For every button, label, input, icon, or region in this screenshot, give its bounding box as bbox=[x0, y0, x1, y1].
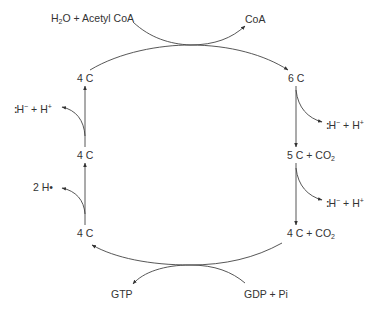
node-right-bottom-4c-co2: 4 C + CO2 bbox=[287, 227, 335, 243]
node-left-mid-4c: 4 C bbox=[77, 149, 93, 161]
product-2h-left-lower: 2 H• bbox=[33, 181, 53, 193]
node-left-bottom-4c: 4 C bbox=[77, 227, 93, 239]
input-water-acetyl-coa: H2O + Acetyl CoA bbox=[51, 12, 134, 28]
product-hydride-right-upper: :H− + H+ bbox=[326, 117, 364, 131]
node-right-mid-5c-co2: 5 C + CO2 bbox=[287, 149, 335, 165]
output-gtp: GTP bbox=[111, 288, 133, 300]
node-right-top-6c: 6 C bbox=[288, 72, 304, 84]
product-hydride-right-lower: :H− + H+ bbox=[326, 195, 364, 209]
output-coa: CoA bbox=[245, 13, 265, 25]
node-left-top-4c: 4 C bbox=[77, 72, 93, 84]
product-hydride-left-upper: :H− + H+ bbox=[14, 101, 52, 115]
input-gdp-pi: GDP + Pi bbox=[244, 288, 288, 300]
